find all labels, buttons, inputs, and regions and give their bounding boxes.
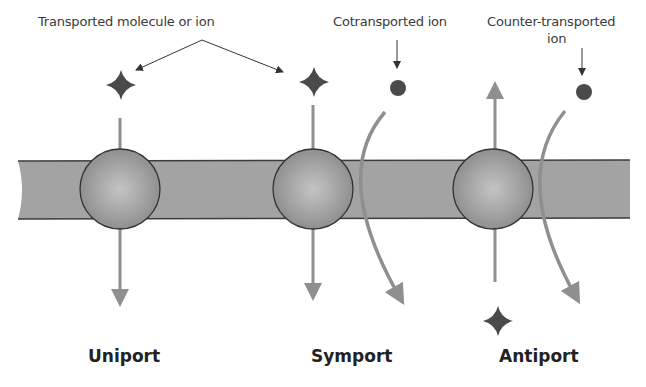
symport-molecule-star-icon — [299, 67, 329, 97]
symport-protein — [273, 149, 353, 229]
uniport-title: Uniport — [88, 346, 160, 366]
antiport-molecule-star-icon — [483, 306, 513, 336]
membrane-transport-diagram — [0, 0, 646, 387]
uniport-protein — [80, 149, 160, 229]
cotransported-ion-label: Cotransported ion — [333, 14, 447, 29]
antiport-protein — [453, 149, 533, 229]
counter-transported-label-line2: ion — [547, 31, 566, 46]
callout-arrows — [136, 40, 582, 75]
counter-transported-ion-icon — [576, 84, 592, 100]
symport-title: Symport — [311, 346, 392, 366]
transported-molecule-label: Transported molecule or ion — [38, 14, 215, 29]
cotransported-ion-icon — [390, 80, 406, 96]
uniport-molecule-star-icon — [106, 70, 136, 100]
counter-transported-label-line1: Counter-transported — [487, 14, 615, 29]
uniport-transporter — [80, 70, 160, 298]
antiport-title: Antiport — [499, 346, 579, 366]
